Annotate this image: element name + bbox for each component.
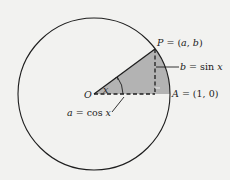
p-close: ): [199, 37, 203, 48]
a-eq: = (1, 0): [182, 88, 219, 99]
sin-eq: = sin: [189, 61, 217, 72]
p-eq: = (: [166, 37, 181, 48]
angle-label: x: [103, 84, 109, 95]
sin-b: b: [180, 61, 186, 72]
cos-leader-line: [112, 97, 124, 112]
sin-label: b= sin x: [180, 61, 223, 72]
cos-x: x: [106, 107, 112, 118]
point-a-label: A= (1, 0): [171, 88, 218, 99]
a-name: A: [171, 88, 179, 99]
cos-eq: = cos: [76, 107, 106, 118]
point-p-label: P= (a, b): [156, 37, 203, 48]
cos-a: a: [67, 107, 73, 118]
cos-label: a= cos x: [67, 107, 112, 118]
p-name: P: [156, 37, 164, 48]
origin-label: O: [84, 89, 92, 100]
sin-x: x: [217, 61, 223, 72]
unit-circle-diagram: O x P= (a, b) b= sin x A= (1, 0) a= cos …: [0, 0, 230, 180]
